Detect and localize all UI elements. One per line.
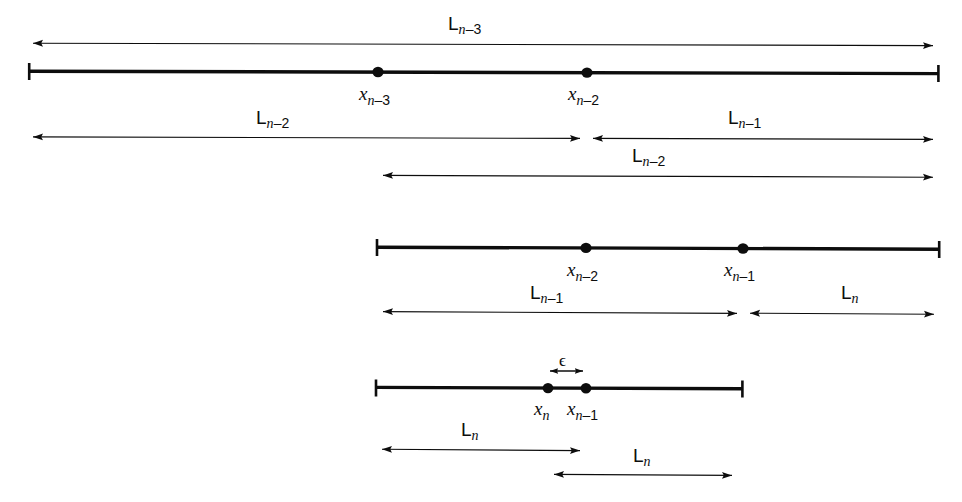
label-L-n-row2-base: L — [841, 282, 852, 303]
interval-segment-row3 — [375, 387, 743, 388]
label-L-n-1-row2-base: L — [530, 282, 541, 303]
label-L-n-3: Ln–3 — [448, 14, 481, 37]
label-L-n-2-left-base: L — [256, 107, 267, 128]
label-L-n-1-row2-sub-n: n — [541, 291, 548, 306]
label-x-n-1-row2: xn–1 — [724, 260, 755, 284]
label-x-n-2-row2-sub-offset: –2 — [582, 268, 598, 284]
span-arrow-L-n-row3-right — [554, 474, 732, 475]
label-L-n-2-mid-sub-n: n — [643, 154, 650, 169]
label-L-n-3-sub-offset: –3 — [466, 21, 482, 37]
label-L-n-1-right: Ln–1 — [728, 108, 761, 131]
label-L-n-row3-right: Ln — [633, 446, 651, 469]
point-x-n-2-row2 — [580, 243, 591, 253]
label-x-n-1-row3: xn–1 — [567, 399, 598, 423]
label-L-n-3-sub-n: n — [459, 22, 466, 37]
point-x-n-3 — [372, 67, 383, 77]
diagram-svg — [0, 0, 962, 502]
label-x-n-2-row1: xn–2 — [568, 84, 599, 108]
point-x-n-row3 — [543, 383, 554, 393]
figure-canvas: Ln–3 xn–3 xn–2 Ln–2 Ln–1 Ln–2 xn–2 xn–1 … — [0, 0, 962, 502]
label-x-n-row3: xn — [534, 399, 549, 423]
label-L-n-2-mid-base: L — [632, 145, 643, 166]
label-L-n-3-base: L — [448, 13, 459, 34]
label-L-n-1-row2-sub-offset: –1 — [548, 290, 564, 306]
label-x-n-2-row2: xn–2 — [567, 260, 598, 284]
interval-segment-row1 — [28, 71, 939, 73]
label-L-n-2-left-sub-offset: –2 — [274, 115, 290, 131]
label-L-n-row3-left-sub-n: n — [472, 428, 479, 443]
label-x-n-1-row2-sub-offset: –1 — [739, 268, 755, 284]
label-x-n-3: xn–3 — [359, 84, 390, 108]
label-L-n-1-right-sub-offset: –1 — [746, 115, 762, 131]
span-arrow-L-n-3 — [33, 43, 933, 45]
span-arrow-L-n-2-mid — [383, 175, 933, 177]
label-L-n-1-right-base: L — [728, 107, 739, 128]
label-L-n-2-mid: Ln–2 — [632, 146, 665, 169]
point-x-n-2-row1 — [581, 67, 592, 77]
label-x-n-3-sub-offset: –3 — [374, 92, 390, 108]
span-arrow-L-n-1-right — [593, 138, 933, 139]
label-L-n-2-left: Ln–2 — [256, 108, 289, 131]
label-L-n-row3-right-sub-n: n — [644, 454, 651, 469]
label-L-n-row3-left: Ln — [461, 420, 479, 443]
label-L-n-row3-left-base: L — [461, 419, 472, 440]
label-L-n-1-row2: Ln–1 — [530, 283, 563, 306]
label-x-n-2-row1-sub-offset: –2 — [583, 92, 599, 108]
point-x-n-1-row2 — [737, 243, 748, 253]
label-L-n-2-mid-sub-offset: –2 — [650, 153, 666, 169]
label-L-n-row2: Ln — [841, 283, 859, 306]
span-arrow-L-n-row3-left — [382, 449, 580, 450]
label-L-n-2-left-sub-n: n — [267, 116, 274, 131]
interval-segment-row2 — [376, 247, 940, 249]
label-L-n-row2-sub-n: n — [852, 291, 859, 306]
span-arrow-L-n-1-row2 — [383, 312, 737, 314]
span-arrow-L-n-row2 — [750, 313, 934, 314]
label-epsilon-glyph: ϵ — [559, 351, 566, 370]
label-x-n-row3-sub-n: n — [542, 408, 549, 423]
span-arrow-L-n-2-left — [33, 137, 580, 139]
label-L-n-1-right-sub-n: n — [739, 116, 746, 131]
label-L-n-row3-right-base: L — [633, 445, 644, 466]
label-x-n-1-row3-sub-offset: –1 — [582, 407, 598, 423]
label-epsilon: ϵ — [559, 352, 566, 369]
point-x-n-1-row3 — [581, 383, 592, 393]
